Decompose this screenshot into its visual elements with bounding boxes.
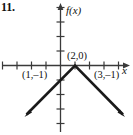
vertex-label: (2,0): [67, 50, 88, 62]
y-axis-arrowhead: [58, 3, 64, 10]
y-axis-label: f(x): [66, 4, 82, 17]
right-point-label: (3,–1): [94, 69, 120, 81]
graph-plot: f(x) x (2,0) (1,–1) (3,–1): [0, 0, 133, 135]
figure-container: 11.: [0, 0, 133, 135]
left-point-label: (1,–1): [22, 69, 48, 81]
x-axis-label: x: [121, 64, 127, 76]
